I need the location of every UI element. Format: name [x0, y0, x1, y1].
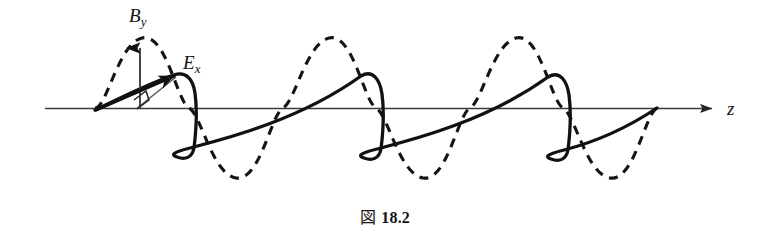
- e-field-symbol: E: [183, 52, 195, 73]
- caption-prefix: 図: [360, 209, 376, 226]
- z-axis-label: z: [727, 99, 734, 118]
- figure-container: By Ex z 図18.2: [0, 0, 770, 243]
- b-field-symbol: B: [129, 5, 141, 26]
- b-field-label: By: [129, 6, 147, 29]
- e-field-curve: [95, 74, 657, 160]
- e-field-wave-solid: [95, 74, 657, 160]
- e-field-label: Ex: [183, 53, 201, 76]
- b-field-subscript: y: [141, 14, 147, 29]
- e-field-subscript: x: [195, 61, 201, 76]
- figure-caption: 図18.2: [0, 204, 770, 228]
- caption-number: 18.2: [376, 209, 410, 226]
